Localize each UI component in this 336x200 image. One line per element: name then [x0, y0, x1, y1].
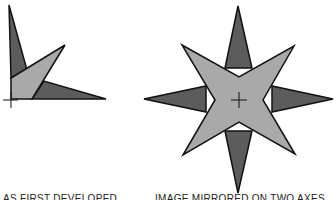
dark-spike-left — [144, 86, 206, 112]
original-shape — [3, 5, 106, 108]
dark-spike-top — [9, 5, 27, 78]
dark-spike-right — [272, 86, 333, 112]
star-diagram — [0, 0, 336, 200]
caption-mirrored: IMAGE MIRRORED ON TWO AXES — [155, 193, 325, 200]
dark-spike-bottom — [225, 131, 252, 193]
caption-original: AS FIRST DEVELOPED — [3, 193, 117, 200]
mirrored-star — [144, 6, 333, 193]
dark-spike-top — [225, 6, 252, 68]
dark-spike-right — [32, 81, 106, 99]
